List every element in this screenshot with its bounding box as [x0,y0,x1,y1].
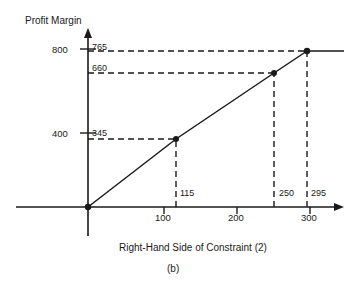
value-label-295: 295 [311,189,326,198]
dashed-vertical-guides [176,53,307,207]
data-series-line [88,51,344,207]
x-tick-label-200: 200 [228,213,244,223]
data-point-markers [85,48,310,210]
y-axis-title: Profit Margin [25,16,82,26]
value-label-250: 250 [279,189,294,198]
figure-caption: (b) [167,264,179,274]
data-point-origin [85,204,91,210]
value-label-115: 115 [180,189,194,198]
chart-canvas [0,0,358,282]
y-tick-label-400: 400 [52,129,68,139]
x-tick-label-300: 300 [301,213,317,223]
data-point-250 [271,70,277,76]
x-axis [16,203,344,211]
value-label-660: 660 [92,64,107,73]
data-point-115 [173,136,179,142]
x-axis-title: Right-Hand Side of Constraint (2) [119,243,267,253]
data-point-295 [304,48,310,54]
value-label-765: 765 [92,43,107,52]
value-label-345: 345 [92,129,107,138]
x-tick-label-100: 100 [155,213,171,223]
figure-chart: Profit Margin Right-Hand Side of Constra… [0,0,358,282]
y-tick-label-800: 800 [52,45,68,55]
